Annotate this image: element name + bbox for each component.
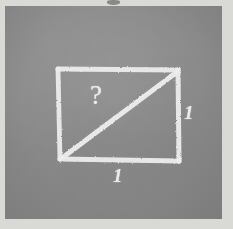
right-side-length-label: 1: [184, 103, 194, 122]
rectangle-left-edge: [58, 69, 60, 159]
rectangle-bottom-edge: [60, 159, 179, 161]
diagonal-line: [62, 72, 177, 158]
chalk-drawing: [0, 0, 233, 229]
bottom-side-length-label: 1: [113, 166, 123, 185]
unknown-length-label: ?: [90, 82, 102, 109]
rectangle-right-edge: [178, 70, 179, 161]
rectangle-top-edge: [58, 69, 178, 70]
chalk-strokes-group: [58, 69, 179, 161]
diagram-canvas: ? 1 1: [0, 0, 233, 229]
